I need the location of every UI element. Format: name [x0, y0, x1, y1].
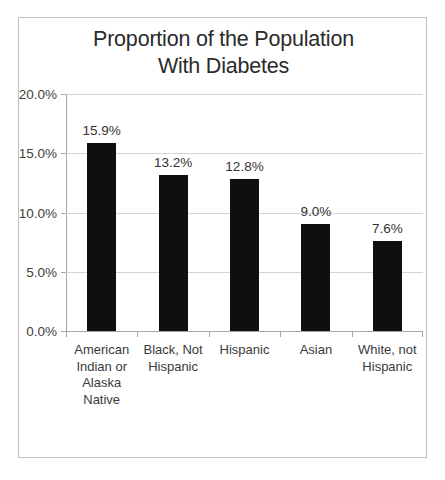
x-tick-mark-4: [352, 331, 353, 337]
y-tick-mark-20: [61, 94, 66, 95]
bar: [301, 224, 330, 331]
gridline-20: [66, 94, 423, 95]
bar: [230, 179, 259, 331]
y-tick-mark-5: [61, 272, 66, 273]
y-tick-mark-15: [61, 153, 66, 154]
y-tick-label-10: 10.0%: [19, 205, 57, 220]
category-label: White, not Hispanic: [344, 342, 430, 375]
bar: [373, 241, 402, 331]
x-axis-line: [66, 331, 423, 332]
bar-value-label: 7.6%: [372, 221, 403, 236]
y-tick-label-0: 0.0%: [26, 324, 57, 339]
bar: [87, 143, 116, 331]
y-tick-label-15: 15.0%: [19, 146, 57, 161]
x-tick-mark-3: [280, 331, 281, 337]
x-tick-mark-2: [209, 331, 210, 337]
bar-value-label: 9.0%: [301, 204, 332, 219]
bar-value-label: 12.8%: [225, 159, 263, 174]
y-tick-mark-10: [61, 213, 66, 214]
bar: [159, 175, 188, 331]
y-tick-label-5: 5.0%: [26, 264, 57, 279]
x-tick-mark-1: [137, 331, 138, 337]
y-tick-label-20: 20.0%: [19, 87, 57, 102]
x-tick-mark-0: [66, 331, 67, 337]
bar-value-label: 13.2%: [154, 155, 192, 170]
chart-title: Proportion of the Population With Diabet…: [19, 26, 428, 80]
gridline-15: [66, 153, 423, 154]
bar-value-label: 15.9%: [83, 123, 121, 138]
chart-frame: Proportion of the Population With Diabet…: [18, 17, 427, 458]
x-tick-mark-5: [422, 331, 423, 337]
plot-area: 20.0% 15.0% 10.0% 5.0% 0.0% 15.9%America…: [66, 94, 423, 331]
